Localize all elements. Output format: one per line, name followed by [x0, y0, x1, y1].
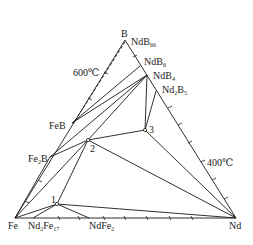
tie-line — [145, 75, 147, 130]
phase-label-ndb6: NdB6 — [144, 56, 166, 68]
tie-line — [145, 130, 236, 218]
point-3-marker — [143, 128, 146, 131]
dashed-line — [73, 42, 125, 124]
point-label-2: 2 — [90, 143, 95, 154]
tie-line — [15, 157, 50, 218]
phase-label-feb: FeB — [49, 120, 66, 131]
ternary-phase-diagram: B Fe Nd 600℃ 400℃ NdB66 NdB6 NdB4 Nd2B5 … — [0, 0, 253, 245]
point-label-1: 1 — [51, 194, 56, 205]
phase-label-nd2fe17: Nd2Fe17 — [28, 220, 59, 232]
temperature-label-600: 600℃ — [73, 67, 99, 78]
phase-label-ndb66: NdB66 — [131, 36, 156, 48]
point-label-3: 3 — [149, 124, 154, 135]
ternary-point-markers — [55, 128, 146, 205]
corner-label-fe: Fe — [8, 220, 19, 231]
phase-label-fe2b: Fe2B — [28, 153, 48, 165]
phase-label-ndb4: NdB4 — [153, 70, 175, 82]
corner-label-nd: Nd — [229, 220, 241, 231]
phase-label-nd2b5: Nd2B5 — [162, 84, 187, 96]
tie-line — [57, 140, 88, 204]
tie-line — [50, 75, 147, 157]
point-2-marker — [86, 138, 89, 141]
corner-label-b: B — [121, 28, 128, 39]
temperature-label-400: 400℃ — [207, 157, 233, 168]
tie-line — [50, 140, 88, 157]
phase-label-ndfe2: NdFe2 — [89, 220, 114, 232]
tie-line — [88, 130, 145, 140]
